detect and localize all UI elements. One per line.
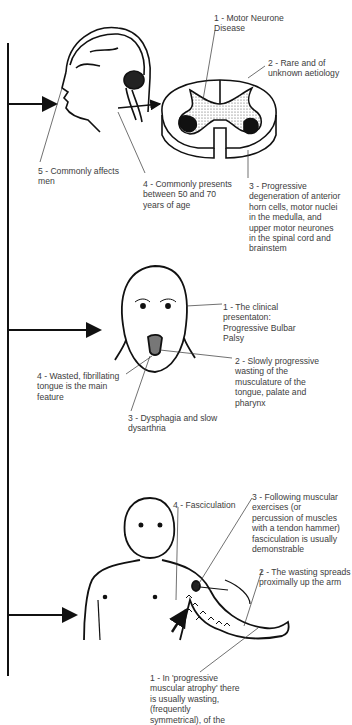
label-progressive-muscular-atrophy: 1 - In 'progressive muscular atrophy' th…	[150, 673, 240, 725]
head-brain-illustration	[62, 28, 160, 132]
label-dysphagia-dysarthria: 3 - Dysphagia and slow dysarthria	[128, 413, 217, 434]
label-commonly-affects-men: 5 - Commonly affects men	[38, 166, 119, 187]
label-wasted-fibrillating-tongue: 4 - Wasted, fibrillating tongue is the m…	[37, 371, 119, 402]
face-tongue-illustration	[115, 266, 195, 372]
label-age-50-70: 4 - Commonly presents between 50 and 70 …	[143, 179, 232, 210]
label-progressive-bulbar-palsy: 1 - The clinical presentaton: Progressiv…	[223, 302, 296, 344]
fasciculation-marks	[186, 595, 230, 626]
leader-lines-panel3	[176, 498, 262, 672]
spinal-cord-section-illustration	[162, 80, 276, 158]
flow-connector	[8, 43, 100, 676]
label-fasciculation: 4 - Fasciculation	[173, 500, 236, 510]
label-motor-neurone-disease: 1 - Motor Neurone Disease	[214, 13, 284, 34]
label-fasciculation-demonstrable: 3 - Following muscular exercises (or per…	[252, 492, 340, 554]
label-wasting-spreads-proximally: 2 - The wasting spreads proximally up th…	[259, 567, 351, 588]
label-progressive-degeneration: 3 - Progressive degeneration of anterior…	[249, 181, 340, 254]
label-wasting-tongue-palate: 2 - Slowly progressive wasting of the mu…	[235, 356, 319, 408]
label-rare-unknown-aetiology: 2 - Rare and of unknown aetiology	[268, 58, 339, 79]
